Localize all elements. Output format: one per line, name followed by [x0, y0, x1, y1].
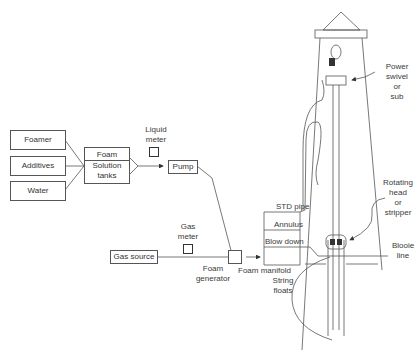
water-label: Water: [27, 186, 48, 196]
foam-manifold-label: Foam manifold: [238, 266, 291, 276]
annulus-label: Annulus: [274, 220, 303, 230]
std-pipe-label: STD pipe: [276, 202, 309, 212]
foamer-label: Foamer: [24, 135, 52, 145]
rotating-head-label: Rotating head or stripper: [378, 178, 418, 218]
foam-generator-label: Foamgenerator: [193, 264, 233, 284]
additives-label: Additives: [22, 161, 54, 171]
pump-label: Pump: [173, 162, 194, 172]
blow-down-label: Blow down: [265, 237, 304, 247]
gas-source-label: Gas source: [114, 252, 155, 262]
liquid-meter-icon: [149, 147, 159, 157]
gas-meter-icon: [183, 244, 193, 254]
foam-generator-box: [228, 250, 242, 264]
blooie-line-label: Blooie line: [388, 241, 418, 261]
water-box: Water: [10, 181, 66, 201]
string-floats-label: String floats: [268, 276, 298, 296]
foam-drilling-diagram: Foamer Additives Water Foam Solution tan…: [0, 0, 420, 350]
tank-label-line2: Solution: [93, 161, 122, 171]
tank-label-line3: tanks: [97, 171, 116, 181]
foam-solution-tanks-box: Foam Solution tanks: [84, 147, 130, 184]
gas-meter-label: Gasmeter: [168, 222, 208, 242]
pump-box: Pump: [168, 160, 198, 174]
additives-box: Additives: [10, 156, 66, 176]
gas-source-box: Gas source: [110, 250, 158, 264]
liquid-meter-label: Liquidmeter: [136, 125, 176, 145]
power-swivel-label: Power swivel or sub: [377, 62, 417, 102]
tank-label-line1: Foam: [85, 150, 129, 161]
foamer-box: Foamer: [10, 130, 66, 150]
